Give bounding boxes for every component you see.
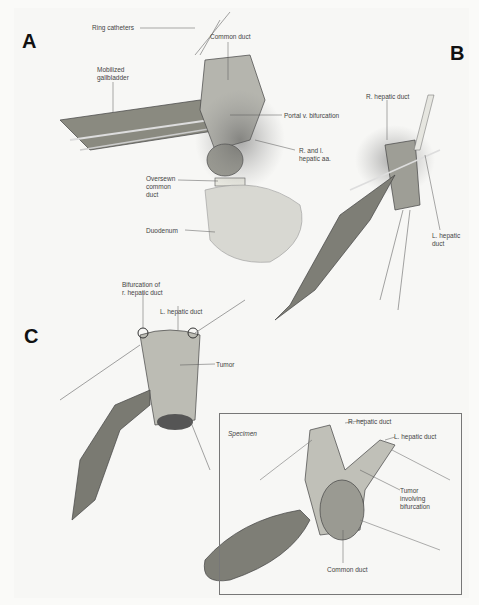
label-r-hepatic-duct-specimen: R. hepatic duct [348,418,391,426]
panel-c-drawing [60,300,245,520]
label-l-hepatic-duct-b: L. hepatic duct [432,232,460,248]
label-mobilized-gallbladder: Mobilized gallbladder [97,66,129,82]
label-common-duct: Common duct [210,33,250,41]
label-duodenum: Duodenum [146,227,178,235]
label-ring-catheters: Ring catheters [92,24,134,32]
label-common-duct-specimen: Common duct [327,566,367,574]
label-r-and-l-hepatic-aa: R. and l. hepatic aa. [299,147,331,163]
label-oversewn-common-duct: Oversewn common duct [146,175,175,199]
label-tumor: Tumor [216,361,235,369]
label-l-hepatic-duct-c: L. hepatic duct [160,308,202,316]
label-tumor-involving-bifurcation: Tumor involving bifurcation [400,487,430,511]
panel-label-a: A [22,30,36,53]
panel-label-b: B [450,42,464,65]
label-bifurcation-r-hepatic-duct: Bifurcation of r. hepatic duct [122,281,162,297]
panel-label-c: C [24,325,38,348]
label-r-hepatic-duct-b: R. hepatic duct [366,93,409,101]
specimen-title: Specimen [228,430,257,438]
label-l-hepatic-duct-specimen: L. hepatic duct [394,433,436,441]
panel-a-drawing [60,12,302,262]
label-portal-v-bifurcation: Portal v. bifurcation [284,112,339,120]
